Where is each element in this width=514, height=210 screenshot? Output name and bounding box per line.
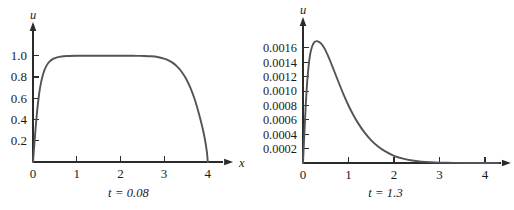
y-axis-name: u (300, 3, 306, 17)
plot-left: xu012340.20.40.60.81.0 (0, 0, 257, 210)
y-axis-arrow-icon (30, 22, 37, 31)
y-tick-label: 0.0010 (263, 84, 297, 98)
y-axis-arrow-icon (300, 17, 307, 26)
y-tick-label: 0.2 (11, 133, 27, 148)
y-tick-label: 0.0014 (263, 56, 297, 70)
y-tick-label: 0.0006 (263, 113, 297, 127)
y-tick-label: 0.8 (11, 69, 27, 84)
caption-right: t = 1.3 (257, 186, 514, 201)
y-tick-label: 0.0002 (263, 142, 297, 156)
x-tick-label: 2 (391, 167, 398, 182)
x-axis-arrow-icon (224, 159, 233, 166)
plot-right: xu012340.00020.00040.00060.00080.00100.0… (257, 0, 514, 210)
x-axis-arrow-icon (502, 160, 511, 167)
chart-panel-left: xu012340.20.40.60.81.0 t = 0.08 (0, 0, 257, 210)
x-tick-label: 2 (117, 166, 124, 181)
x-tick-label: 0 (300, 167, 307, 182)
y-tick-label: 0.0016 (263, 41, 297, 55)
x-tick-label: 3 (161, 166, 168, 181)
x-tick-label: 3 (436, 167, 443, 182)
y-tick-label: 1.0 (11, 48, 27, 63)
y-tick-label: 0.0008 (263, 99, 297, 113)
x-tick-label: 4 (482, 167, 489, 182)
chart-panel-right: xu012340.00020.00040.00060.00080.00100.0… (257, 0, 514, 210)
y-tick-label: 0.6 (11, 91, 28, 106)
x-tick-label: 1 (345, 167, 352, 182)
x-tick-label: 1 (73, 166, 80, 181)
y-tick-label: 0.0004 (263, 128, 297, 142)
caption-left: t = 0.08 (0, 186, 257, 201)
y-axis-name: u (30, 8, 36, 22)
x-tick-label: 4 (205, 166, 212, 181)
data-curve (33, 56, 208, 162)
y-tick-label: 0.4 (11, 112, 28, 127)
data-curve (303, 41, 499, 163)
x-tick-label: 0 (30, 166, 37, 181)
figure-container: xu012340.20.40.60.81.0 t = 0.08 xu012340… (0, 0, 514, 210)
x-axis-name: x (238, 156, 245, 170)
y-tick-label: 0.0012 (263, 70, 297, 84)
